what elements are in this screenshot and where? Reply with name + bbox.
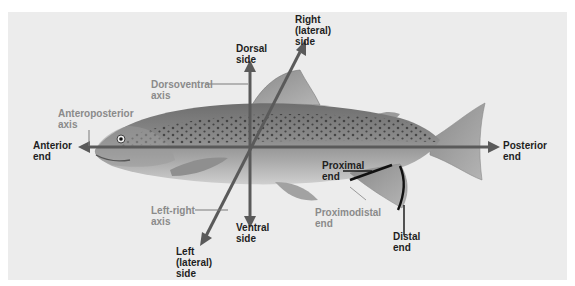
right-lateral-side-label: Right (lateral) side (295, 14, 331, 47)
distal-end-label: Distal end (393, 231, 420, 253)
ventral-side-label: Ventral side (236, 222, 269, 244)
dorsal-side-label: Dorsal side (236, 43, 267, 65)
dorsoventral-axis-label: Dorsoventral axis (151, 79, 213, 101)
left-right-axis-label: Left-right axis (151, 205, 195, 227)
left-lateral-side-label: Left (lateral) side (176, 246, 212, 279)
anterior-end-label: Anterior end (33, 140, 72, 162)
anteroposterior-axis-label: Anteroposterior axis (58, 108, 134, 130)
posterior-end-label: Posterior end (503, 140, 547, 162)
proximodistal-end-label: Proximodistal end (315, 207, 381, 229)
fish-illustration (0, 0, 575, 286)
proximal-end-label: Proximal end (322, 160, 364, 182)
dorsal-fin (252, 70, 320, 105)
